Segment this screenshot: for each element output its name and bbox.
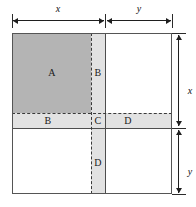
dimension-tick-top-right [172, 14, 173, 28]
dimension-label-top-y: y [137, 4, 141, 14]
dimension-tick-top-middle [105, 14, 106, 28]
dimension-arrow-right-x [175, 35, 182, 126]
region-label-a: A [48, 68, 55, 78]
region-label-b-horizontal: B [45, 116, 52, 126]
arrow-head-right [166, 18, 171, 24]
dimension-arrow-top-y [107, 17, 171, 24]
dimension-label-top-x: x [56, 4, 60, 14]
square-partition-figure: A B B C D D x y x y [0, 0, 196, 207]
arrow-head-left [13, 18, 18, 24]
arrow-head-bottom [176, 188, 182, 193]
arrow-shaft [178, 130, 179, 193]
arrow-head-top [176, 35, 182, 40]
dimension-tick-right-top [172, 33, 186, 34]
region-label-c: C [95, 116, 102, 126]
region-label-d-horizontal: D [124, 116, 131, 126]
outer-square-border [12, 33, 172, 194]
arrow-shaft [107, 20, 171, 21]
arrow-shaft [178, 35, 179, 126]
region-label-d-vertical: D [94, 158, 101, 168]
dimension-tick-right-bottom [172, 194, 186, 195]
region-label-b-vertical: B [95, 68, 102, 78]
dimension-label-right-x: x [188, 86, 192, 96]
dimension-label-right-y: y [188, 167, 192, 177]
dimension-tick-right-middle [172, 128, 186, 129]
arrow-head-left [107, 18, 112, 24]
arrow-head-bottom [176, 121, 182, 126]
arrow-shaft [13, 20, 104, 21]
dimension-arrow-top-x [13, 17, 104, 24]
dimension-arrow-right-y [175, 130, 182, 193]
arrow-head-right [99, 18, 104, 24]
arrow-head-top [176, 130, 182, 135]
